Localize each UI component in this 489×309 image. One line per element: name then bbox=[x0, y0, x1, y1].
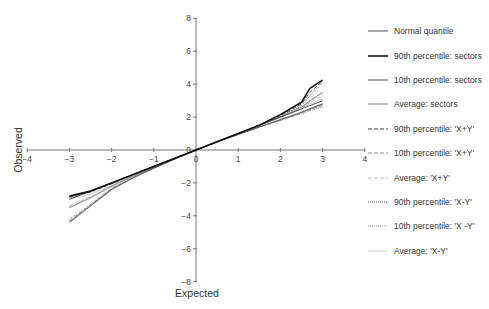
legend-swatch-icon bbox=[368, 100, 388, 108]
legend-swatch-icon bbox=[368, 174, 388, 182]
y-tick-label: −4 bbox=[181, 211, 191, 221]
y-tick-label: −2 bbox=[181, 178, 191, 188]
legend-label: Average: sectors bbox=[394, 99, 458, 109]
legend-swatch-icon bbox=[368, 198, 388, 206]
legend-item: Average: 'X+Y' bbox=[368, 165, 489, 189]
legend-label: 10th percentile: 'X -Y' bbox=[394, 221, 474, 231]
x-tick-label: 0 bbox=[194, 154, 199, 164]
y-axis-title: Observed bbox=[12, 127, 24, 173]
legend-item: Average: 'X-Y' bbox=[368, 239, 489, 263]
legend-label: Average: 'X-Y' bbox=[394, 246, 448, 256]
legend-label: 90th percentile: 'X+Y' bbox=[394, 124, 474, 134]
legend-swatch-icon bbox=[368, 27, 388, 35]
legend-label: 90th percentile: 'X-Y' bbox=[394, 197, 472, 207]
x-tick-label: −3 bbox=[65, 154, 75, 164]
x-tick-label: 2 bbox=[278, 154, 283, 164]
x-tick-label: 4 bbox=[362, 154, 367, 164]
legend-swatch-icon bbox=[368, 125, 388, 133]
legend-item: 10th percentile: 'X+Y' bbox=[368, 141, 489, 165]
x-axis-title: Expected bbox=[175, 287, 219, 299]
legend-item: 10th percentile: sectors bbox=[368, 68, 489, 92]
y-tick-label: 6 bbox=[186, 46, 191, 56]
y-tick-label: −6 bbox=[181, 244, 191, 254]
legend-label: Normal quantile bbox=[394, 26, 454, 36]
legend-item: 90th percentile: 'X+Y' bbox=[368, 117, 489, 141]
legend-swatch-icon bbox=[368, 247, 388, 255]
legend-label: 10th percentile: 'X+Y' bbox=[394, 148, 474, 158]
y-tick-label: 2 bbox=[186, 112, 191, 122]
legend-item: 90th percentile: sectors bbox=[368, 43, 489, 67]
y-tick-label: 8 bbox=[186, 13, 191, 23]
legend-swatch-icon bbox=[368, 76, 388, 84]
y-tick-label: −8 bbox=[181, 277, 191, 287]
legend: Normal quantile90th percentile: sectors1… bbox=[368, 19, 489, 263]
x-tick-label: 3 bbox=[320, 154, 325, 164]
legend-item: 90th percentile: 'X-Y' bbox=[368, 190, 489, 214]
legend-label: 90th percentile: sectors bbox=[394, 51, 482, 61]
x-tick-label: 1 bbox=[236, 154, 241, 164]
x-tick-label: −1 bbox=[149, 154, 159, 164]
legend-swatch-icon bbox=[368, 52, 388, 60]
legend-swatch-icon bbox=[368, 149, 388, 157]
legend-item: 10th percentile: 'X -Y' bbox=[368, 214, 489, 238]
legend-label: 10th percentile: sectors bbox=[394, 75, 482, 85]
legend-item: Normal quantile bbox=[368, 19, 489, 43]
x-tick-label: −2 bbox=[107, 154, 117, 164]
legend-item: Average: sectors bbox=[368, 92, 489, 116]
legend-label: Average: 'X+Y' bbox=[394, 173, 450, 183]
legend-swatch-icon bbox=[368, 222, 388, 230]
y-tick-label: 4 bbox=[186, 79, 191, 89]
